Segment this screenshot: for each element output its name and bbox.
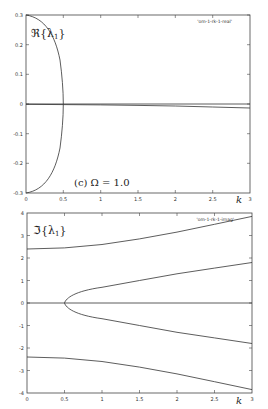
x-tick-label: 2.5 [211, 396, 219, 402]
series-lines [26, 15, 250, 193]
panel-label: (c) Ω = 1.0 [74, 177, 130, 188]
y-tick-label: 3 [21, 233, 24, 239]
imag-part-annotation: ℑ{λ1} [33, 224, 66, 238]
y-tick-label: -4 [19, 390, 24, 396]
x-tick-labels: 0 0.5 1 1.5 2 2.5 3 [24, 196, 251, 202]
y-tick-label: -0.3 [13, 190, 23, 196]
x-tick-label: 2.5 [209, 196, 217, 202]
y-tick-label: 0.1 [15, 71, 23, 77]
x-tick-label: 1.5 [134, 196, 142, 202]
x-tick-labels: 0 0.5 1 1.5 2 2.5 3 [25, 396, 253, 402]
imag-part-chart: 4 3 2 1 0 -1 -2 -3 -4 0 0.5 1 1.5 2 2.5 … [19, 210, 254, 406]
x-axis-label: k [236, 395, 242, 406]
x-tick-label: 0 [24, 196, 27, 202]
x-axis-label: k [236, 194, 242, 205]
x-tick-label: 1 [100, 396, 103, 402]
x-tick-label: 0 [25, 396, 28, 402]
x-tick-label: 1.5 [136, 396, 144, 402]
figure: 0.3 0.2 0.1 0 -0.1 -0.2 -0.3 0 0.5 1 1.5… [0, 0, 268, 409]
real-part-chart: 0.3 0.2 0.1 0 -0.1 -0.2 -0.3 0 0.5 1 1.5… [13, 12, 251, 205]
x-tick-label: 0.5 [59, 196, 67, 202]
y-tick-labels: 0.3 0.2 0.1 0 -0.1 -0.2 -0.3 [13, 12, 23, 196]
x-tick-label: 3 [250, 396, 253, 402]
y-tick-label: 0 [20, 101, 23, 107]
x-tick-label: 2 [174, 196, 177, 202]
x-tick-label: 0.5 [61, 396, 69, 402]
lower-line [27, 357, 252, 390]
y-tick-label: 0 [21, 300, 24, 306]
x-tick-label: 2 [175, 396, 178, 402]
y-tick-label: -0.2 [13, 160, 23, 166]
branch-lower-line [65, 303, 253, 344]
branch-upper-line [65, 263, 253, 304]
y-tick-label: 4 [21, 210, 24, 216]
y-tick-label: -1 [19, 323, 24, 329]
x-tick-label: 3 [248, 196, 251, 202]
y-tick-label: 1 [21, 278, 24, 284]
y-tick-label: -0.1 [13, 131, 23, 137]
decaying-branch-line [26, 104, 250, 108]
y-tick-label: -2 [19, 345, 24, 351]
y-tick-labels: 4 3 2 1 0 -1 -2 -3 -4 [19, 210, 24, 396]
y-tick-label: 0.3 [15, 12, 23, 18]
series-lines [27, 216, 252, 389]
x-tick-label: 1 [99, 196, 102, 202]
y-tick-label: 2 [21, 255, 24, 261]
y-tick-label: 0.2 [15, 42, 23, 48]
legend-label: 'om-1-rk-1-real' [197, 19, 232, 24]
y-tick-label: -3 [19, 368, 24, 374]
